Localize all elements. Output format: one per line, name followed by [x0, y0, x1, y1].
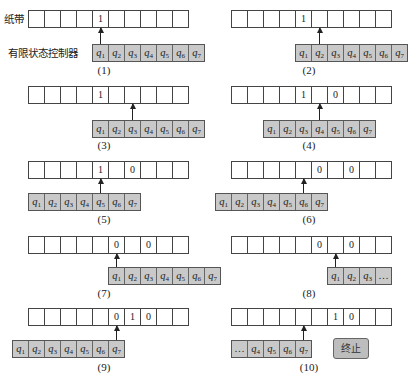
- state-cell: q2: [344, 268, 360, 284]
- state-cell: q4: [141, 121, 157, 137]
- state-cell: q2: [29, 341, 45, 357]
- state-cell: q1: [296, 45, 312, 61]
- tape-cell: 0: [328, 87, 344, 103]
- tape-cell: [328, 162, 344, 178]
- tape-cell: [360, 87, 376, 103]
- state-cell: q2: [45, 194, 61, 210]
- state-cell: q4: [141, 45, 157, 61]
- tape-cell: [248, 11, 264, 27]
- state-cell: q2: [109, 45, 125, 61]
- tape-cell: [344, 11, 360, 27]
- finite-state-controller: q1q2q3q4q5q6q7: [215, 193, 328, 211]
- state-cell: q3: [328, 45, 344, 61]
- state-cell: q3: [125, 45, 141, 61]
- tape-cell: [344, 87, 360, 103]
- tape-cell: [173, 87, 188, 103]
- state-cell: q7: [189, 121, 204, 137]
- tape-cell: [61, 11, 77, 27]
- panel-caption: (4): [289, 139, 329, 151]
- head-arrow-icon: [100, 28, 101, 44]
- state-cell: q4: [157, 268, 173, 284]
- tape-cell: [29, 162, 45, 178]
- tape-cell: 1: [93, 87, 109, 103]
- tape-cell: [29, 237, 45, 253]
- tape-cell: [376, 237, 391, 253]
- state-cell: q5: [77, 341, 93, 357]
- tape-cell: [77, 87, 93, 103]
- state-cell: q3: [360, 268, 376, 284]
- head-arrow-icon: [116, 326, 117, 340]
- tape-cell: 0: [344, 162, 360, 178]
- tape-cell: [376, 309, 391, 325]
- state-cell: q1: [109, 268, 125, 284]
- tape-cell: [93, 237, 109, 253]
- state-cell: q4: [344, 45, 360, 61]
- state-cell: q4: [77, 194, 93, 210]
- state-cell: q4: [312, 121, 328, 137]
- tape-cell: [125, 87, 141, 103]
- finite-state-controller: q1q2q3q4q5q6q7: [263, 120, 376, 138]
- tape-cell: 1: [93, 11, 109, 27]
- panel-caption: (6): [289, 213, 329, 225]
- state-cell: q4: [264, 194, 280, 210]
- tape-cell: [376, 87, 391, 103]
- state-cell: q1: [13, 341, 29, 357]
- tape-cell: 0: [344, 309, 360, 325]
- tape-cell: [77, 11, 93, 27]
- head-arrow-icon: [132, 104, 133, 120]
- tape: 00: [231, 236, 392, 254]
- tape-cell: [141, 162, 157, 178]
- state-cell: q1: [264, 121, 280, 137]
- tape: 1: [28, 86, 189, 104]
- finite-state-controller: q1q2q3q4q5q6q7: [108, 267, 221, 285]
- tape-cell: [93, 309, 109, 325]
- tape-cell: [280, 87, 296, 103]
- tape: 10: [28, 161, 189, 179]
- state-cell: q2: [232, 194, 248, 210]
- tape-cell: [376, 11, 391, 27]
- state-cell: q2: [280, 121, 296, 137]
- tape-cell: [173, 309, 188, 325]
- state-cell: q6: [109, 194, 125, 210]
- tape-cell: [264, 87, 280, 103]
- tape-cell: [328, 237, 344, 253]
- state-cell: q6: [93, 341, 109, 357]
- state-cell: q7: [360, 121, 375, 137]
- tape-cell: [29, 309, 45, 325]
- tape-cell: [280, 309, 296, 325]
- tape-cell: [264, 11, 280, 27]
- state-cell: q5: [173, 268, 189, 284]
- state-cell: q6: [280, 341, 296, 357]
- state-cell: q3: [45, 341, 61, 357]
- tape: 00: [231, 161, 392, 179]
- panel-caption: (5): [84, 213, 124, 225]
- state-cell: q7: [205, 268, 220, 284]
- state-cell: q7: [109, 341, 124, 357]
- state-cell: q2: [312, 45, 328, 61]
- tape-cell: [141, 11, 157, 27]
- tape-cell: 0: [141, 237, 157, 253]
- tape-cell: [312, 11, 328, 27]
- finite-state-controller: …q4q5q6q7: [231, 340, 312, 358]
- state-cell: q7: [125, 194, 140, 210]
- state-cell: q6: [173, 121, 189, 137]
- tape-cell: [328, 11, 344, 27]
- tape-cell: [109, 87, 125, 103]
- finite-state-controller: q1q2q3q4q5q6q7: [92, 120, 205, 138]
- tape-cell: [280, 11, 296, 27]
- state-cell: q5: [93, 194, 109, 210]
- state-cell: q4: [248, 341, 264, 357]
- head-arrow-icon: [319, 104, 320, 120]
- head-arrow-icon: [335, 254, 336, 267]
- tape-cell: [157, 237, 173, 253]
- state-cell: q5: [157, 121, 173, 137]
- tape-cell: [45, 237, 61, 253]
- panel-caption: (8): [289, 287, 329, 299]
- tape-cell: [173, 237, 188, 253]
- tape-cell: [173, 162, 188, 178]
- tape: 00: [28, 236, 189, 254]
- tape-cell: 0: [141, 309, 157, 325]
- state-cell: q3: [248, 194, 264, 210]
- state-cell: q1: [93, 45, 109, 61]
- head-arrow-icon: [319, 28, 320, 44]
